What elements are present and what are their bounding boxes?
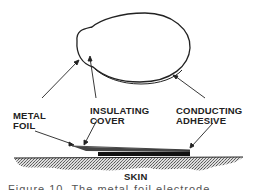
electrode-layers xyxy=(72,146,190,156)
label-line: ADHESIVE xyxy=(176,116,242,126)
electrode-pad xyxy=(77,13,190,84)
label-line: FOIL xyxy=(13,121,46,131)
label-line: COVER xyxy=(90,116,149,126)
figure-caption: Figure 10. The metal-foil electrode xyxy=(8,183,210,190)
label-skin: SKIN xyxy=(124,172,148,182)
label-insulating-cover: INSULATING COVER xyxy=(90,106,149,126)
label-conducting-adhesive: CONDUCTING ADHESIVE xyxy=(176,106,242,126)
electrode-diagram xyxy=(0,0,254,190)
label-metal-foil: METAL FOIL xyxy=(13,111,46,131)
skin-surface xyxy=(14,157,243,170)
